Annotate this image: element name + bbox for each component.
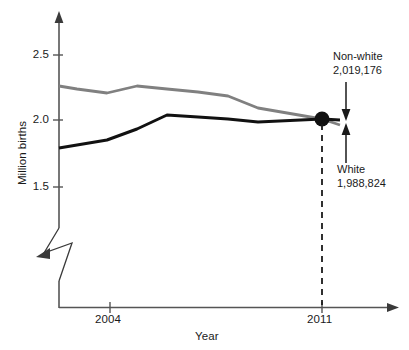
non-white-annotation-value: 2,019,176 <box>333 64 383 78</box>
white-annotation-label: White <box>337 163 386 177</box>
non-white-annotation-label: Non-white <box>333 50 383 64</box>
births-line-chart: 2.5 2.0 1.5 Million births 2004 2011 Yea… <box>0 0 409 350</box>
x-tick-label-2004: 2004 <box>95 313 121 325</box>
y-axis-title: Million births <box>16 121 28 185</box>
x-axis <box>59 302 399 313</box>
white-annotation-value: 1,988,824 <box>337 177 386 191</box>
white-arrow-icon <box>342 123 351 163</box>
non-white-annotation: Non-white 2,019,176 <box>333 50 383 77</box>
x-tick-label-2011: 2011 <box>307 313 332 325</box>
white-annotation: White 1,988,824 <box>337 163 386 190</box>
non-white-arrow-icon <box>342 82 351 121</box>
series-white <box>59 115 340 148</box>
x-axis-title: Year <box>195 330 219 342</box>
y-tick-label-2-5: 2.5 <box>19 48 49 60</box>
